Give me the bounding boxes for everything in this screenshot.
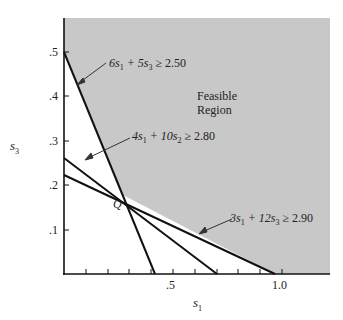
y-axis-title: s3 — [10, 139, 19, 156]
x-tick-label: 1.0 — [272, 279, 287, 291]
y-tick-label: .3 — [49, 135, 58, 147]
y-tick-label: .2 — [49, 179, 58, 191]
feasible-region — [64, 18, 330, 274]
constraint-label-2: 4s1 + 10s2 ≥ 2.80 — [132, 130, 215, 145]
y-tick-label: .1 — [49, 224, 58, 236]
constraint-label-1: 6s1 + 5s3 ≥ 2.50 — [109, 57, 186, 72]
feasible-region-label: Feasible Region — [197, 89, 237, 117]
y-tick-label: .4 — [49, 90, 58, 102]
x-axis-title: s1 — [193, 296, 202, 313]
y-tick-label: .5 — [49, 46, 58, 58]
point-q-label: Q — [113, 198, 122, 210]
x-tick-label: .5 — [166, 279, 175, 291]
constraint-label-3: 3s1 + 12s3 ≥ 2.90 — [230, 212, 313, 227]
